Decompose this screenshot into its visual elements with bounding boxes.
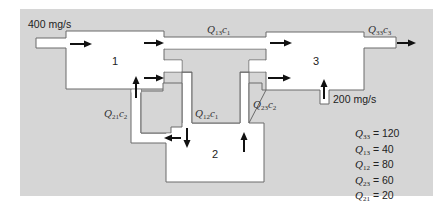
flow-label-q13: Q13c1 <box>207 24 230 37</box>
legend-row-q13: Q13 = 40 <box>355 144 399 160</box>
inlet-1-label: 400 mg/s <box>28 19 71 30</box>
reactor-2-label: 2 <box>212 149 218 160</box>
legend-row-q33: Q33 = 120 <box>355 128 399 144</box>
legend-row-q12: Q12 = 80 <box>355 159 399 175</box>
flow-label-q12: Q12c1 <box>195 108 218 121</box>
flow-label-q21: Q21c2 <box>104 108 127 121</box>
flow-rate-legend: Q33 = 120 Q13 = 40 Q12 = 80 Q23 = 60 Q21… <box>355 128 399 206</box>
legend-row-q23: Q23 = 60 <box>355 175 399 191</box>
flow-label-q33: Q33c3 <box>368 24 391 37</box>
reactor-1-label: 1 <box>112 56 118 67</box>
inlet-3-label: 200 mg/s <box>333 94 376 105</box>
flow-label-q23: Q23c2 <box>253 99 276 112</box>
legend-row-q21: Q21 = 20 <box>355 190 399 206</box>
reactor-3-label: 3 <box>313 56 319 67</box>
divider-loop-block <box>141 83 182 133</box>
